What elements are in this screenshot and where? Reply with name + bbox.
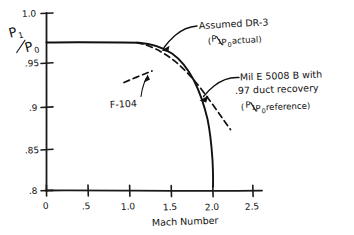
y-tick-label-2: .9 (29, 103, 38, 113)
annotation-f-104: F-104 (110, 71, 152, 110)
x-tick-label-1: .5 (82, 201, 91, 211)
annotation-assumed-dr3: Assumed DR-3 ( P 1 P 0 actual) (162, 16, 269, 52)
pressure-recovery-chart: 1.0 .95 .9 .85 .8 0 .5 1.0 1.5 2.0 2.5 M… (0, 0, 354, 235)
y-tick-label-0: 1.0 (22, 8, 37, 19)
annotation-f-104-arrowhead (144, 75, 150, 83)
x-tick-label-0: 0 (43, 201, 50, 211)
y-tick-0-95 (41, 63, 53, 64)
x-tick-label-3: 1.5 (163, 202, 178, 213)
y-tick-label-1: .95 (25, 58, 40, 68)
x-axis-title: Mach Number (152, 215, 219, 228)
annotation-mil-e-5008b-p1: P (245, 100, 251, 110)
annotation-assumed-dr3-line2: ( P 1 P 0 actual) (207, 31, 262, 50)
annotation-mil-e-5008b-line1: Mil E 5008 B with (240, 69, 323, 83)
annotation-assumed-dr3-line1: Assumed DR-3 (199, 16, 269, 31)
annotation-mil-e-5008b-line2: .97 duct recovery (235, 82, 319, 96)
series-assumed-dr3-curve (47, 42, 214, 186)
y-tick-0-85 (41, 149, 53, 150)
x-tick-label-5: 2.5 (245, 201, 260, 212)
axes-group (46, 13, 262, 191)
annotation-assumed-dr3-p1: P (211, 34, 217, 44)
y-axis-tick-labels: 1.0 .95 .9 .85 .8 (22, 8, 40, 196)
x-axis-tick-labels: 0 .5 1.0 1.5 2.0 2.5 (43, 201, 260, 213)
y-axis-title: P 1 P 0 (7, 20, 40, 60)
annotation-assumed-dr3-p0: P (221, 37, 227, 47)
annotation-mil-e-5008b-paren-open: ( (241, 102, 245, 112)
series-mil-e-5008b-curve (137, 43, 231, 130)
y-tick-label-3: .85 (25, 145, 40, 155)
annotation-mil-e-5008b-leader (204, 77, 240, 96)
annotation-mil-e-5008b-p0: P (255, 103, 261, 113)
chart-page: 1.0 .95 .9 .85 .8 0 .5 1.0 1.5 2.0 2.5 M… (0, 0, 354, 235)
annotation-f-104-label: F-104 (110, 98, 138, 110)
annotation-assumed-dr3-actual: actual) (232, 34, 262, 46)
x-tick-label-2: 1.0 (121, 201, 136, 212)
y-tick-1-0 (41, 13, 53, 14)
annotation-mil-e-5008b: Mil E 5008 B with .97 duct recovery ( P … (200, 69, 323, 116)
y-axis-title-denominator-subscript: 0 (33, 45, 40, 55)
y-tick-0-9 (41, 107, 53, 108)
x-tick-label-4: 2.0 (205, 202, 220, 213)
y-tick-label-4: .8 (29, 186, 38, 196)
annotation-mil-e-5008b-reference: reference) (266, 101, 311, 113)
annotation-mil-e-5008b-line3: ( P 1 P 0 reference) (241, 98, 311, 116)
annotation-assumed-dr3-leader (164, 26, 197, 48)
y-axis-title-numerator-subscript: 1 (17, 31, 24, 41)
